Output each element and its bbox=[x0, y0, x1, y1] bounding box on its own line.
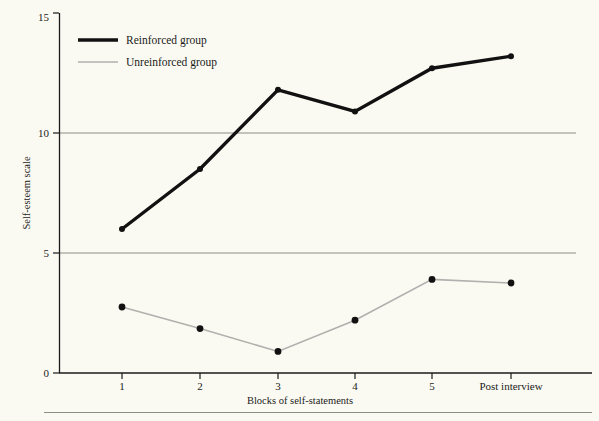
data-point bbox=[352, 317, 359, 324]
legend-label-reinforced: Reinforced group bbox=[126, 34, 207, 47]
y-axis-title: Self-esteem scale bbox=[21, 156, 32, 230]
legend: Reinforced group Unreinforced group bbox=[78, 34, 217, 69]
data-point bbox=[197, 325, 204, 332]
data-point bbox=[429, 276, 436, 283]
series-markers-unreinforced bbox=[119, 276, 515, 355]
data-point bbox=[119, 226, 125, 232]
y-tick-label-5: 5 bbox=[44, 247, 50, 259]
x-tick-label-5: 5 bbox=[429, 380, 435, 392]
y-tick-label-15: 15 bbox=[38, 11, 50, 23]
x-axis-title: Blocks of self-statements bbox=[247, 395, 353, 406]
data-point bbox=[508, 53, 514, 59]
x-axis-ticks: 1 2 3 4 5 Post interview bbox=[119, 373, 542, 392]
y-tick-label-10: 10 bbox=[38, 127, 50, 139]
series-unreinforced-group bbox=[119, 276, 515, 355]
series-line-unreinforced bbox=[122, 279, 511, 351]
series-reinforced-group bbox=[119, 53, 514, 232]
y-axis-ticks: 0 5 10 15 bbox=[38, 11, 59, 379]
figure-container: 0 5 10 15 1 2 3 4 5 Post interview Self-… bbox=[0, 0, 599, 421]
line-chart: 0 5 10 15 1 2 3 4 5 Post interview Self-… bbox=[0, 0, 599, 421]
data-point bbox=[275, 348, 282, 355]
gridlines bbox=[59, 133, 576, 253]
y-tick-label-0: 0 bbox=[44, 367, 50, 379]
legend-label-unreinforced: Unreinforced group bbox=[126, 56, 217, 69]
data-point bbox=[508, 280, 515, 287]
x-tick-label-3: 3 bbox=[275, 380, 281, 392]
data-point bbox=[429, 65, 435, 71]
data-point bbox=[119, 304, 126, 311]
x-tick-label-1: 1 bbox=[119, 380, 125, 392]
data-point bbox=[352, 108, 358, 114]
x-tick-label-4: 4 bbox=[352, 380, 358, 392]
data-point bbox=[197, 166, 203, 172]
series-markers-reinforced bbox=[119, 53, 514, 232]
x-tick-label-2: 2 bbox=[197, 380, 203, 392]
data-point bbox=[275, 87, 281, 93]
series-line-reinforced bbox=[122, 56, 511, 229]
x-tick-label-post-interview: Post interview bbox=[479, 380, 542, 392]
